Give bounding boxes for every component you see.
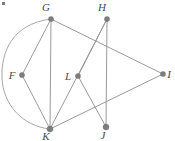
vertex-label-f: F	[8, 69, 16, 81]
vertex-l[interactable]	[75, 73, 80, 78]
edge-l-h	[78, 19, 107, 76]
vertex-label-i: I	[166, 68, 172, 80]
vertex-f[interactable]	[19, 72, 24, 77]
vertex-h[interactable]	[104, 16, 109, 21]
top-left-artifact-mark	[2, 2, 5, 5]
graph-canvas: G H F L I K J	[0, 0, 175, 141]
graph-figure: G H F L I K J	[0, 0, 175, 141]
vertex-label-h: H	[97, 1, 107, 13]
edge-g-k	[50, 19, 51, 129]
vertex-label-l: L	[64, 70, 71, 82]
edge-h-j	[106, 19, 107, 127]
vertex-i[interactable]	[160, 71, 165, 76]
vertex-label-g: G	[42, 1, 50, 13]
vertex-label-j: J	[101, 129, 107, 141]
vertex-label-k: K	[41, 130, 50, 141]
edge-l-j	[78, 76, 106, 127]
vertex-g[interactable]	[48, 16, 53, 21]
